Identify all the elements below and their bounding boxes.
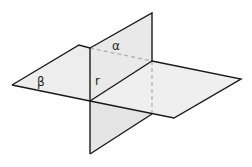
label-r: r	[95, 74, 100, 88]
intersecting-planes-diagram: α β r	[0, 0, 252, 167]
label-beta: β	[37, 75, 45, 89]
label-alpha: α	[112, 39, 120, 53]
